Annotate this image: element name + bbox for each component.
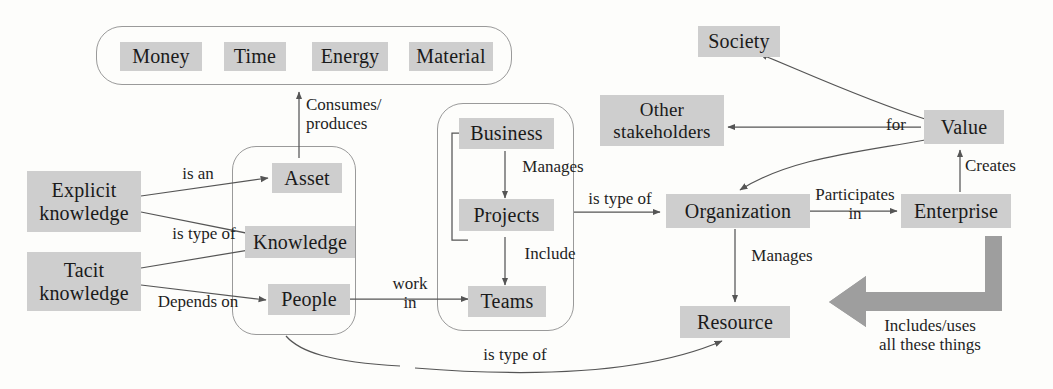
edge-label-include: Include [510,245,590,264]
node-explicit-knowledge[interactable]: Explicit knowledge [27,171,141,232]
edge-label-is-type-of-knowledge: is type of [148,225,260,244]
edge-label-creates: Creates [965,157,1045,176]
node-time[interactable]: Time [224,42,286,71]
node-value[interactable]: Value [924,110,1004,144]
node-tacit-knowledge[interactable]: Tacit knowledge [27,252,141,311]
node-resource[interactable]: Resource [680,306,790,338]
edge-label-depends-on: Depends on [140,293,256,312]
node-enterprise[interactable]: Enterprise [901,194,1011,228]
node-society[interactable]: Society [698,26,780,57]
node-projects[interactable]: Projects [459,199,554,231]
node-people[interactable]: People [268,284,350,315]
node-material[interactable]: Material [409,42,493,71]
node-organization[interactable]: Organization [666,194,810,228]
edge-label-participates-in: Participates in [808,186,902,223]
includes-uses-thick-arrow [829,236,1003,327]
node-energy[interactable]: Energy [312,42,388,71]
node-knowledge[interactable]: Knowledge [245,226,355,258]
edge-label-manages-resource: Manages [737,247,827,266]
edge-label-consumes-produces: Consumes/ produces [306,96,416,133]
node-other-stakeholders[interactable]: Other stakeholders [600,95,724,146]
edge-label-is-type-of-organization: is type of [578,190,662,209]
edge-label-manages-projects: Manages [508,158,598,177]
diagram-canvas: Money Time Energy Material Explicit know… [0,0,1053,389]
edge-label-for: for [875,116,917,135]
edge-label-is-type-of-resource: is type of [460,346,570,365]
node-asset[interactable]: Asset [272,163,342,193]
edge-label-includes-uses: Includes/uses all these things [845,317,1015,354]
node-business[interactable]: Business [459,118,554,149]
node-teams[interactable]: Teams [468,286,546,317]
edge-label-work-in: work in [380,275,440,312]
node-money[interactable]: Money [120,42,202,71]
edge-label-is-an: is an [163,165,233,184]
